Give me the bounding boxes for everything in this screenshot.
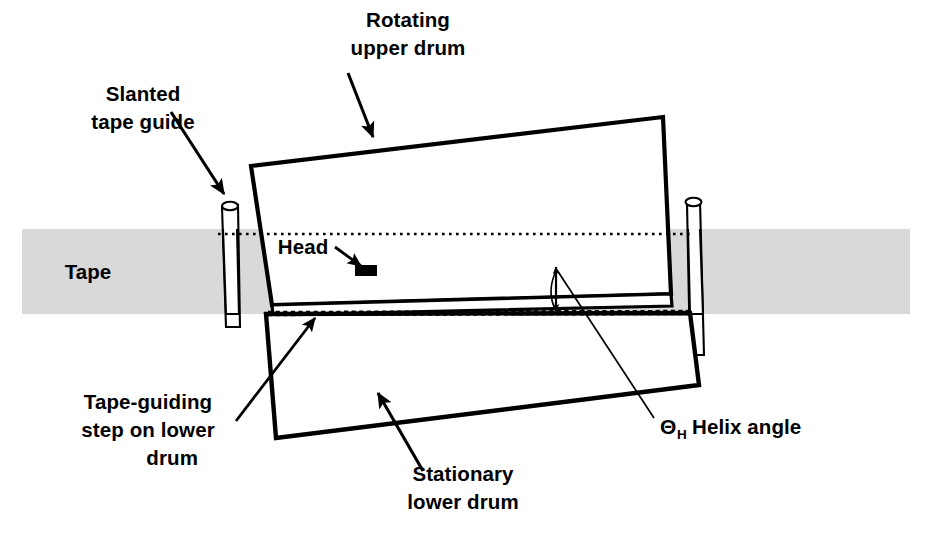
stationary-lower-drum-line2: lower drum bbox=[407, 490, 519, 513]
tape-label: Tape bbox=[65, 260, 112, 283]
label-head: Head bbox=[278, 235, 329, 258]
helix-angle-text: Helix angle bbox=[692, 415, 801, 438]
rotating-upper-drum-line1: Rotating bbox=[366, 8, 450, 31]
label-tape-guiding-step: Tape-guiding step on lower drum bbox=[81, 390, 214, 469]
tape-guiding-step-line1: Tape-guiding bbox=[84, 390, 212, 413]
head-block bbox=[355, 265, 377, 276]
rotating-upper-drum-line2: upper drum bbox=[351, 36, 466, 59]
diagram-canvas: Tape bbox=[0, 0, 933, 540]
label-helix-angle: Θ H Helix angle bbox=[660, 415, 801, 442]
head-label: Head bbox=[278, 235, 329, 258]
stationary-lower-drum-line1: Stationary bbox=[412, 462, 514, 485]
helical-scan-drum-diagram: Tape bbox=[0, 0, 933, 540]
tape-guiding-step-line3: drum bbox=[146, 446, 198, 469]
helix-angle-symbol: Θ bbox=[660, 415, 676, 438]
label-stationary-lower-drum: Stationary lower drum bbox=[407, 462, 519, 513]
helix-angle-subscript: H bbox=[677, 427, 687, 442]
leader-rotating-upper-drum bbox=[348, 73, 373, 137]
slanted-tape-guide-line2: tape guide bbox=[91, 110, 195, 133]
label-slanted-tape-guide: Slanted tape guide bbox=[91, 82, 195, 133]
label-rotating-upper-drum: Rotating upper drum bbox=[351, 8, 466, 59]
left-tape-guide bbox=[222, 202, 240, 327]
rotating-upper-drum bbox=[251, 117, 672, 315]
slanted-tape-guide-line1: Slanted bbox=[106, 82, 181, 105]
stationary-lower-drum bbox=[266, 313, 699, 438]
tape-guiding-step-line2: step on lower bbox=[81, 418, 214, 441]
